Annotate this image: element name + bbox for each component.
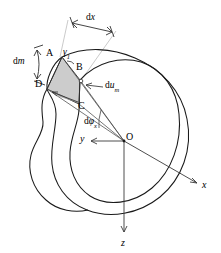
diagram-canvas	[0, 0, 221, 253]
axis-z	[121, 141, 127, 232]
label-axis-x: x	[202, 180, 206, 190]
element-centroid-dot	[79, 79, 83, 83]
label-point-c: C	[78, 101, 85, 111]
du-leader-arrow	[86, 83, 103, 89]
label-point-b: B	[76, 62, 83, 72]
gamma1-angle-arc	[67, 61, 74, 64]
origin-dot	[123, 140, 126, 143]
figure-container: ddxx dm γ1 A B C D dum dφx O y x z	[0, 0, 221, 253]
label-dm: dm	[13, 57, 25, 67]
label-dx: ddxx	[86, 13, 95, 23]
label-point-d: D	[35, 79, 42, 89]
label-du-m: dum	[105, 81, 119, 92]
axis-y	[91, 138, 124, 144]
label-dphi-x: dφx	[84, 117, 97, 128]
label-axis-z: z	[121, 238, 125, 248]
label-axis-y: y	[80, 134, 84, 144]
inner-body-contour	[70, 60, 180, 203]
axis-x	[124, 141, 197, 183]
label-gamma1: γ1	[63, 48, 70, 59]
label-origin: O	[126, 132, 133, 142]
label-point-a: A	[46, 48, 53, 58]
